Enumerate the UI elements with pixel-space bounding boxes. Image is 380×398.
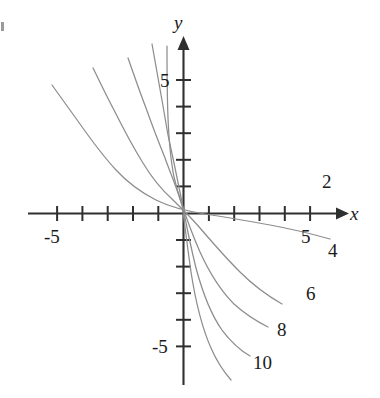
curve-label-2: 2 (322, 171, 332, 192)
exponential-curves-figure: x y -5 5 -5 5 2 4 6 8 10 (0, 0, 380, 398)
axis-labels: x y (172, 12, 359, 224)
chart-svg: x y -5 5 -5 5 2 4 6 8 10 (0, 0, 380, 398)
y-axis-label: y (172, 12, 183, 33)
curve-label-8: 8 (277, 319, 287, 340)
x-tick-label-pos5: 5 (301, 226, 311, 247)
scan-artifact (1, 22, 4, 31)
curve-base-2 (52, 85, 330, 239)
curve-labels: 2 4 6 8 10 (253, 171, 338, 373)
curve-label-4: 4 (328, 240, 338, 261)
x-axis-arrowhead (336, 208, 349, 220)
curve-base-6 (128, 58, 268, 327)
curves-group (52, 44, 330, 380)
y-tick-label-neg5: -5 (152, 336, 168, 357)
curve-label-6: 6 (306, 283, 316, 304)
x-axis-label: x (349, 203, 359, 224)
curve-label-10: 10 (253, 352, 272, 373)
y-tick-label-pos5: 5 (160, 70, 170, 91)
y-axis-arrowhead (178, 36, 190, 50)
x-tick-label-neg5: -5 (44, 226, 60, 247)
